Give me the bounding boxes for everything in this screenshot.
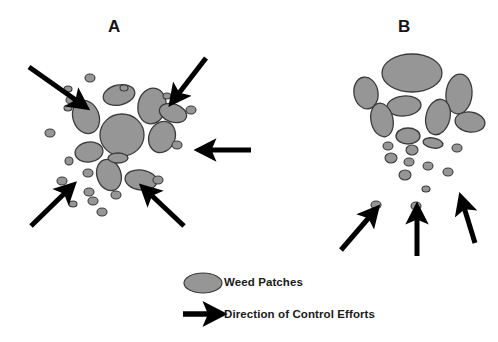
weed-patch bbox=[57, 177, 67, 185]
diagram-canvas bbox=[0, 0, 498, 342]
weed-patch bbox=[385, 153, 397, 163]
weed-patch bbox=[85, 74, 95, 82]
weed-patch bbox=[404, 158, 414, 166]
weed-patch bbox=[45, 129, 55, 137]
weed-patch bbox=[120, 85, 128, 91]
panel-label-a: A bbox=[108, 17, 120, 37]
legend-weed-patches-label: Weed Patches bbox=[224, 276, 303, 288]
weed-patch bbox=[382, 54, 442, 92]
weed-patch bbox=[186, 106, 196, 114]
panel-b-arrow-group bbox=[341, 204, 475, 256]
weed-patch bbox=[163, 93, 171, 99]
weed-patch bbox=[396, 128, 420, 144]
weed-patch bbox=[83, 169, 93, 177]
weed-patch bbox=[406, 145, 418, 155]
panel-b-patch-group bbox=[351, 54, 486, 210]
weed-patch bbox=[423, 162, 433, 170]
arrow-bottom-left bbox=[31, 190, 68, 226]
weed-patch bbox=[74, 140, 105, 164]
weed-patch bbox=[153, 176, 163, 184]
weed-patch bbox=[443, 168, 453, 176]
weed-patch bbox=[101, 82, 136, 108]
figure-container: A B Weed Patches Direction of Control Ef… bbox=[0, 0, 498, 342]
weed-patch bbox=[97, 208, 107, 216]
weed-patch bbox=[108, 153, 128, 163]
panel-label-b: B bbox=[398, 17, 410, 37]
arrow-bottom-left bbox=[341, 214, 372, 250]
arrow-top-left bbox=[29, 67, 80, 103]
weed-patch bbox=[88, 197, 98, 205]
weed-patch bbox=[111, 191, 121, 199]
arrow-bottom-right bbox=[148, 192, 184, 226]
weed-patch bbox=[69, 201, 77, 207]
legend-control-efforts-label: Direction of Control Efforts bbox=[224, 308, 375, 320]
arrow-top-right bbox=[176, 58, 206, 97]
arrow-bottom-right bbox=[463, 204, 475, 243]
weed-patch bbox=[422, 186, 430, 192]
weed-patch bbox=[411, 202, 421, 210]
weed-patch bbox=[84, 188, 94, 196]
legend-weed-patch-swatch bbox=[184, 273, 222, 293]
weed-patch bbox=[399, 170, 411, 180]
weed-patch bbox=[422, 136, 443, 149]
weed-patch bbox=[64, 105, 72, 111]
weed-patch bbox=[65, 157, 73, 165]
weed-patch bbox=[371, 201, 381, 209]
weed-patch bbox=[100, 114, 144, 156]
weed-patch bbox=[383, 142, 393, 150]
weed-patch bbox=[452, 144, 462, 152]
weed-patch bbox=[172, 141, 182, 149]
